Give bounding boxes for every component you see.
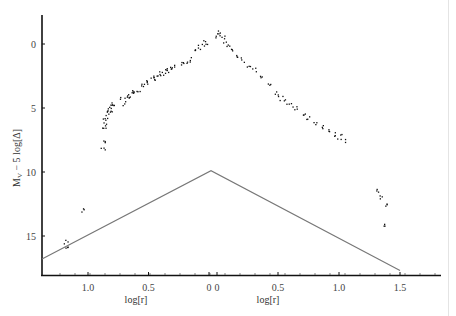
data-point (260, 77, 261, 78)
x-tick-label-right: 0 (215, 282, 220, 293)
data-point (244, 62, 245, 63)
triangle-model-line (42, 171, 400, 271)
data-point (228, 44, 229, 45)
data-point (282, 96, 283, 97)
data-point (218, 30, 219, 31)
data-point (260, 76, 261, 77)
y-tick-label: 5 (31, 103, 36, 114)
data-point (250, 66, 251, 67)
data-point (170, 67, 171, 68)
data-point (106, 124, 107, 125)
x-tick-label-left: 1.0 (82, 282, 95, 293)
data-point (147, 84, 148, 85)
data-point (205, 41, 206, 42)
data-point (335, 132, 336, 133)
data-point (341, 139, 342, 140)
scatter-points (64, 30, 388, 248)
data-point (198, 47, 199, 48)
data-point (291, 103, 292, 104)
data-point (195, 49, 196, 50)
data-point (159, 74, 160, 75)
data-point (105, 118, 106, 119)
data-point (105, 125, 106, 126)
data-point (269, 85, 270, 86)
data-point (249, 66, 250, 67)
data-point (133, 92, 134, 93)
data-point (105, 149, 106, 150)
x-tick-label-right: 1.5 (394, 282, 407, 293)
data-point (141, 84, 142, 85)
data-point (153, 76, 154, 77)
data-point (128, 94, 129, 95)
x-tick-label-right: 1.0 (333, 282, 346, 293)
x-tick-label-left: 0 (207, 282, 212, 293)
data-point (132, 92, 133, 93)
data-point (103, 148, 104, 149)
data-point (380, 195, 381, 196)
data-point (262, 76, 263, 77)
data-point (286, 104, 287, 105)
data-point (111, 108, 112, 109)
data-point (315, 124, 316, 125)
svg-text:MV − 5 log[Δ]: MV − 5 log[Δ] (11, 129, 24, 187)
data-point (163, 75, 164, 76)
data-point (316, 122, 317, 123)
data-point (296, 106, 297, 107)
data-point (64, 243, 65, 244)
data-point (162, 72, 163, 73)
data-point (167, 68, 168, 69)
data-point (229, 46, 230, 47)
data-point (378, 192, 379, 193)
data-point (67, 247, 68, 248)
data-point (276, 91, 277, 92)
data-point (108, 108, 109, 109)
data-point (382, 196, 383, 197)
data-point (67, 241, 68, 242)
data-point (107, 112, 108, 113)
data-point (226, 42, 227, 43)
data-point (384, 226, 385, 227)
data-point (252, 68, 253, 69)
data-point (377, 189, 378, 190)
data-point (101, 148, 102, 149)
data-point (165, 73, 166, 74)
data-point (81, 211, 82, 212)
data-point (385, 206, 386, 207)
data-point (174, 65, 175, 66)
data-point (140, 91, 141, 92)
data-point (284, 100, 285, 101)
data-point (105, 128, 106, 129)
data-point (125, 101, 126, 102)
data-point (157, 75, 158, 76)
data-point (108, 114, 109, 115)
data-point (137, 91, 138, 92)
triangle-model-line (42, 171, 400, 271)
x-axis-label-left: log[r] (125, 294, 148, 305)
data-point (226, 46, 227, 47)
data-point (255, 68, 256, 69)
data-point (143, 86, 144, 87)
data-point (289, 104, 290, 105)
data-point (202, 44, 203, 45)
data-point (107, 118, 108, 119)
data-point (241, 57, 242, 58)
data-point (191, 57, 192, 58)
data-point (217, 33, 218, 34)
data-point (124, 98, 125, 99)
data-point (386, 203, 387, 204)
data-point (232, 50, 233, 51)
data-point (345, 142, 346, 143)
data-point (110, 112, 111, 113)
data-point (268, 83, 269, 84)
data-point (280, 100, 281, 101)
data-point (215, 37, 216, 38)
data-point (236, 55, 237, 56)
data-point (105, 142, 106, 143)
data-point (341, 134, 342, 135)
data-point (223, 42, 224, 43)
data-point (165, 69, 166, 70)
data-point (384, 224, 385, 225)
data-point (65, 248, 66, 249)
data-point (171, 68, 172, 69)
data-point (174, 66, 175, 67)
